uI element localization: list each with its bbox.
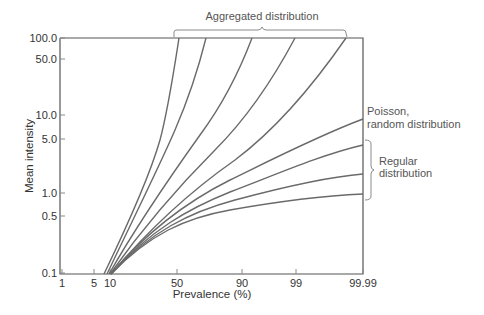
aggregated-brace — [174, 27, 347, 37]
x-tick-label: 99.99 — [349, 277, 377, 289]
regular-label-line1: Regular — [379, 155, 418, 167]
plot-frame — [60, 38, 363, 274]
curve-aggregated — [109, 38, 252, 274]
x-axis-ticks: 151050909999.99 — [59, 269, 377, 289]
aggregated-label: Aggregated distribution — [205, 10, 318, 22]
curve-aggregated — [110, 38, 295, 274]
x-axis-label: Prevalence (%) — [173, 288, 252, 300]
x-tick-label: 5 — [91, 277, 97, 289]
y-tick-label: 0.5 — [42, 210, 57, 222]
regular-label-line2: distribution — [379, 167, 432, 179]
x-tick-label: 1 — [59, 277, 65, 289]
curve-aggregated — [104, 38, 179, 274]
curve-aggregated — [107, 38, 206, 274]
curves — [104, 38, 363, 274]
y-tick-label: 1.0 — [42, 187, 57, 199]
y-tick-label: 50.0 — [36, 53, 57, 65]
curve-regular — [111, 194, 363, 274]
poisson-label-line1: Poisson, — [367, 105, 409, 117]
poisson-label-line2: random distribution — [367, 118, 461, 130]
x-tick-label: 10 — [104, 277, 116, 289]
y-tick-label: 100.0 — [29, 32, 57, 44]
y-tick-label: 10.0 — [36, 109, 57, 121]
curve-aggregated — [111, 38, 346, 274]
y-tick-label: 0.1 — [42, 267, 57, 279]
plot-axes — [60, 38, 363, 274]
x-tick-label: 99 — [290, 277, 302, 289]
y-tick-label: 5.0 — [42, 133, 57, 145]
regular-brace — [365, 140, 374, 200]
chart: 100.050.010.05.01.00.50.1 151050909999.9… — [0, 0, 484, 315]
y-axis-label: Mean intensity — [23, 119, 35, 193]
